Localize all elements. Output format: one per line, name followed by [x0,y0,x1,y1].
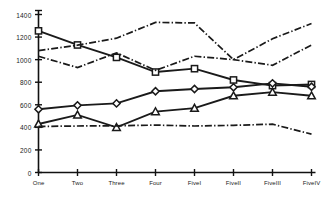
series-marker-diamond [113,100,120,107]
series-line [39,31,312,86]
series-marker-triangle [191,104,199,111]
series-marker-square [230,77,236,83]
y-axis-tick-label: 1000 [0,56,32,63]
y-axis-tick-label: 200 [0,146,32,153]
y-axis-tick-label: 0 [0,169,32,176]
chart-canvas [0,0,331,209]
series-marker-triangle [152,108,160,115]
y-axis-tick-label: 400 [0,124,32,131]
series-marker-triangle [113,124,121,131]
x-axis-tick-label: FiveII [226,180,241,186]
series-marker-diamond [152,88,159,95]
series-marker-diamond [74,102,81,109]
series-line [39,92,312,127]
series-marker-diamond [35,106,42,113]
series-marker-triangle [230,92,238,99]
x-axis-tick-label: FiveI [188,180,202,186]
series-marker-diamond [191,85,198,92]
x-axis-tick-label: One [33,180,45,186]
chart-series [39,22,312,59]
chart-series [35,80,315,113]
series-marker-square [191,66,197,72]
y-axis-tick-label: 1200 [0,34,32,41]
series-marker-square [35,28,41,34]
y-axis-tick-label: 1400 [0,11,32,18]
x-axis-tick-label: FiveIV [303,180,321,186]
series-marker-triangle [74,111,82,118]
y-axis-tick-label: 800 [0,79,32,86]
y-axis-tick-label: 600 [0,101,32,108]
series-line [39,22,312,59]
chart-series [39,124,312,134]
line-chart: 0200400600800100012001400 OneTwoThreeFou… [0,0,331,209]
series-marker-diamond [230,84,237,91]
series-marker-triangle [308,92,316,99]
series-marker-square [113,54,119,60]
x-axis-tick-label: Two [72,180,83,186]
x-axis-tick-label: Four [149,180,162,186]
x-axis-tick-label: FiveIII [264,180,281,186]
series-line [39,124,312,134]
x-axis-tick-label: Three [108,180,124,186]
